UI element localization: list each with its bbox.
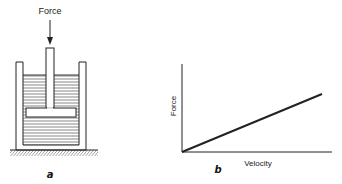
piston-head — [26, 108, 76, 117]
force-velocity-line — [182, 94, 322, 152]
panel-a-label: a — [47, 169, 54, 180]
piston-rod — [46, 48, 54, 108]
y-axis-label: Force — [169, 95, 178, 116]
panel-a-dashpot: Force — [10, 6, 98, 180]
force-arrow-icon — [47, 20, 53, 45]
ground-hatching — [10, 150, 98, 156]
panel-b-graph: Force Velocity b — [169, 64, 332, 175]
dashpot-diagram: Force — [0, 0, 342, 184]
force-label: Force — [38, 6, 61, 16]
panel-b-label: b — [214, 164, 221, 175]
x-axis-label: Velocity — [244, 159, 272, 168]
